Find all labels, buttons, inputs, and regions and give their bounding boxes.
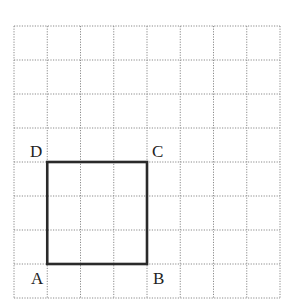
label-c: C	[152, 143, 163, 160]
label-b: B	[153, 270, 164, 287]
square-abcd	[47, 162, 147, 264]
label-a: A	[31, 270, 43, 287]
label-d: D	[30, 143, 42, 160]
grid-diagram	[0, 0, 291, 308]
